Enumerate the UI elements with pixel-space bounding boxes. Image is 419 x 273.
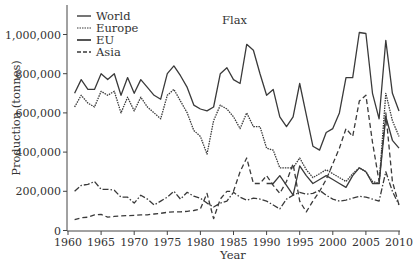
legend: World Europe EU Asia xyxy=(77,9,139,59)
x-axis-title: Year xyxy=(219,248,246,262)
x-tick-label: 2010 xyxy=(385,236,413,249)
x-tick-label: 1960 xyxy=(54,236,82,249)
x-tick-label: 1995 xyxy=(286,236,314,249)
x-tick-label: 1965 xyxy=(87,236,115,249)
x-tick-label: 2000 xyxy=(319,236,347,249)
series-layer xyxy=(75,33,399,220)
chart-title: Flax xyxy=(222,13,248,27)
y-tick-label: 200,000 xyxy=(16,185,62,198)
line-chart: 0200,000400,000600,000800,0001,000,000 1… xyxy=(0,0,419,273)
legend-label: Asia xyxy=(95,45,121,59)
x-tick-label: 2005 xyxy=(352,236,380,249)
series-world xyxy=(75,33,399,151)
x-tick-label: 1980 xyxy=(186,236,214,249)
x-tick-label: 1990 xyxy=(253,236,281,249)
x-tick-label: 1970 xyxy=(120,236,148,249)
legend-item-asia: Asia xyxy=(77,45,121,59)
x-axis: 1960196519701975198019851990199520002005… xyxy=(54,231,413,249)
y-tick-label: 1,000,000 xyxy=(5,29,61,42)
x-tick-label: 1975 xyxy=(153,236,181,249)
y-axis-title: Production (tonnes) xyxy=(9,60,23,176)
series-europe xyxy=(75,89,399,183)
series-asia xyxy=(75,95,399,219)
